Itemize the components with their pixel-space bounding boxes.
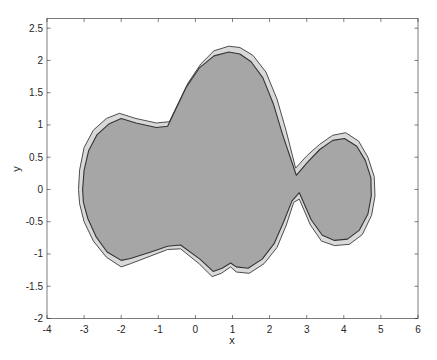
x-tick-label: 3 xyxy=(304,324,310,335)
x-tick-label: 1 xyxy=(230,324,236,335)
chart-canvas: -4-3-2-10123456 -2-1.5-1-0.500.511.522.5… xyxy=(0,0,437,360)
y-tick-label: 0.5 xyxy=(29,152,43,163)
x-tick-label: 0 xyxy=(193,324,199,335)
y-tick-label: -0.5 xyxy=(26,216,44,227)
plot-region-shapes xyxy=(79,46,376,276)
y-tick-label: 1.5 xyxy=(29,87,43,98)
x-axis-label: x xyxy=(229,334,235,346)
y-tick-label: -1 xyxy=(34,248,43,259)
y-tick-label: 2 xyxy=(37,55,43,66)
y-tick-label: 1 xyxy=(37,119,43,130)
y-tick-label: -2 xyxy=(34,313,43,324)
x-tick-label: 2 xyxy=(267,324,273,335)
x-tick-label: -1 xyxy=(154,324,163,335)
y-tick-label: -1.5 xyxy=(26,281,44,292)
y-tick-label: 0 xyxy=(37,184,43,195)
x-tick-label: -2 xyxy=(117,324,126,335)
x-tick-label: -4 xyxy=(43,324,52,335)
y-tick-label: 2.5 xyxy=(29,23,43,34)
x-tick-label: 6 xyxy=(415,324,421,335)
x-tick-label: 4 xyxy=(341,324,347,335)
y-axis-label: y xyxy=(10,166,22,172)
x-tick-label: -3 xyxy=(80,324,89,335)
x-tick-label: 5 xyxy=(378,324,384,335)
